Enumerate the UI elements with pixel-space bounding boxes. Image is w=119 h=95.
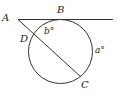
point-b-label: B <box>57 5 64 15</box>
point-c-label: C <box>81 80 89 90</box>
angle-b-label: b° <box>44 26 54 36</box>
geometry-diagram: A B D C b° a° <box>0 0 119 95</box>
circle <box>29 20 93 84</box>
point-d-label: D <box>20 34 28 44</box>
angle-a-label: a° <box>95 45 105 55</box>
point-a-label: A <box>2 13 9 23</box>
